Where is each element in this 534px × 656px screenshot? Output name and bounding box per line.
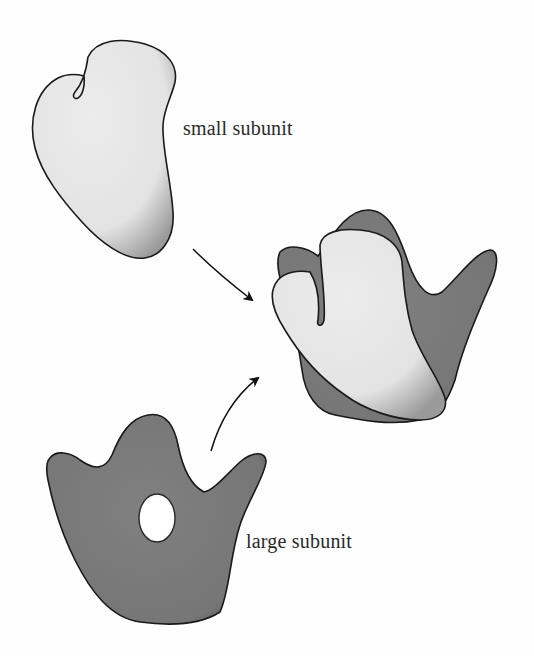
arrow-small-to-assembled: [193, 249, 252, 300]
large-subunit: [47, 415, 266, 625]
small-subunit: [33, 40, 176, 258]
small-subunit-shape: [33, 40, 176, 258]
diagram-artwork: [0, 0, 534, 656]
small-subunit-label: small subunit: [183, 117, 293, 140]
assembled-ribosome: [272, 210, 496, 423]
arrow-large-to-assembled: [211, 378, 258, 451]
large-subunit-hole: [139, 494, 175, 542]
large-subunit-label: large subunit: [246, 530, 352, 553]
ribosome-diagram: small subunit large subunit: [0, 0, 534, 656]
